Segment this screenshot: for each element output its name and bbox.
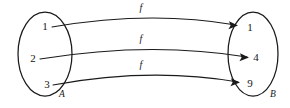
set-b-element-1: 1 [247,21,253,33]
arrowhead-2 [239,53,249,61]
mapping-label-2: f [140,33,144,44]
set-b-element-4: 4 [253,51,259,63]
mapping-svg: 1 2 3 1 4 9 A B f f f [0,0,290,108]
set-a-element-2: 2 [30,52,36,64]
function-mapping-diagram: 1 2 3 1 4 9 A B f f f [0,0,290,108]
mapping-label-3: f [140,59,144,70]
set-a-name-label: A [58,89,65,99]
set-b-element-9: 9 [247,77,253,89]
mapping-arrow-3 [53,75,238,85]
mapping-label-1: f [140,2,144,13]
set-b-name-label: B [270,89,276,99]
arrowhead-3 [230,78,240,86]
mapping-arrow-1 [52,18,236,27]
set-a-element-3: 3 [44,78,50,90]
mapping-arrow-2 [40,49,247,59]
set-a-element-1: 1 [42,20,48,32]
